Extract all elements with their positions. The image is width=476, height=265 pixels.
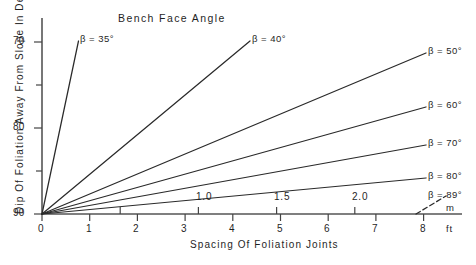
x-unit-label-ft: ft [446, 223, 453, 234]
x-tick-label-ft-8: 8 [420, 223, 426, 234]
x-tick-label-ft-1: 1 [86, 223, 92, 234]
chart-title: Bench Face Angle [118, 12, 226, 24]
series-lines [42, 41, 446, 214]
x-unit-label-m: m [446, 202, 455, 213]
x-tick-marks-ft [42, 214, 424, 221]
y-tick-label-70: 70 [13, 35, 25, 46]
series-line-b50 [42, 53, 426, 214]
plot-canvas [0, 0, 476, 265]
x-tick-label-m-1-0: 1.0 [196, 191, 212, 202]
y-tick-label-80: 80 [13, 121, 25, 132]
series-label-b40: β = 40° [252, 33, 286, 44]
series-label-b50: β = 50° [428, 45, 462, 56]
chart-figure: Bench Face Angle Dip Of Foliation Away F… [0, 0, 476, 265]
x-tick-label-ft-3: 3 [181, 223, 187, 234]
x-tick-marks-m [120, 207, 355, 214]
x-axis-title: Spacing Of Foliation Joints [190, 239, 339, 250]
series-label-b70: β = 70° [428, 137, 462, 148]
series-label-b35: β = 35° [80, 33, 114, 44]
series-label-b60: β = 60° [428, 99, 462, 110]
x-tick-label-ft-2: 2 [133, 223, 139, 234]
x-tick-label-ft-6: 6 [324, 223, 330, 234]
x-tick-label-m-1-5: 1.5 [274, 191, 290, 202]
series-line-b60 [42, 107, 426, 214]
series-label-b80: β = 80° [428, 170, 462, 181]
x-tick-label-ft-0: 0 [38, 223, 44, 234]
x-tick-label-ft-4: 4 [229, 223, 235, 234]
y-tick-marks [34, 42, 42, 214]
y-axis-title: Dip Of Foliation Away From Slope In Degr… [14, 0, 25, 214]
x-tick-label-m-2-0: 2.0 [352, 191, 368, 202]
x-tick-label-ft-7: 7 [372, 223, 378, 234]
series-line-b70 [42, 145, 426, 214]
x-tick-label-ft-5: 5 [277, 223, 283, 234]
series-label-b89: β = 89° [428, 189, 462, 200]
y-tick-label-90: 90 [13, 207, 25, 218]
series-line-b80 [42, 178, 426, 214]
